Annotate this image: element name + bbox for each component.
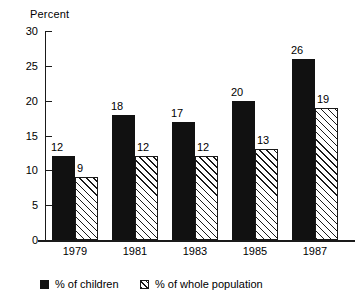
bar-children-1987 xyxy=(292,59,315,240)
bar-whole-1983 xyxy=(195,156,218,240)
bar-whole-1987 xyxy=(315,108,338,240)
bar-chart: Percent 051015202530 1979198119831985198… xyxy=(0,0,361,308)
bar-value-label: 20 xyxy=(231,87,243,98)
x-axis-tick-label: 1981 xyxy=(105,245,165,257)
chart-legend: % of children % of whole population xyxy=(0,278,361,298)
bar-whole-1979 xyxy=(75,177,98,240)
y-axis-tick-label: 15 xyxy=(0,130,38,142)
x-axis-tick-label: 1983 xyxy=(165,245,225,257)
bar-value-label: 17 xyxy=(171,108,183,119)
y-axis-tick-label: 25 xyxy=(0,60,38,72)
y-axis-tick-label: 0 xyxy=(0,234,38,246)
bar-group: 1712 xyxy=(172,31,218,240)
bar-value-label: 18 xyxy=(111,101,123,112)
bar-value-label: 12 xyxy=(51,142,63,153)
bar-children-1981 xyxy=(112,115,135,240)
y-axis-title: Percent xyxy=(30,8,69,20)
bar-group: 1812 xyxy=(112,31,158,240)
bar-whole-1981 xyxy=(135,156,158,240)
bar-group: 129 xyxy=(52,31,98,240)
bar-whole-1985 xyxy=(255,149,278,240)
bar-group: 2013 xyxy=(232,31,278,240)
y-axis-tick-label: 20 xyxy=(0,95,38,107)
y-axis-tick-label: 5 xyxy=(0,199,38,211)
bar-value-label: 12 xyxy=(137,142,149,153)
bar-value-label: 9 xyxy=(77,163,83,174)
y-axis-tick-label: 30 xyxy=(0,25,38,37)
bar-group: 2619 xyxy=(292,31,338,240)
bar-children-1979 xyxy=(52,156,75,240)
bar-value-label: 19 xyxy=(317,94,329,105)
bar-value-label: 13 xyxy=(257,135,269,146)
legend-item-whole-population: % of whole population xyxy=(140,278,263,290)
legend-label-children: % of children xyxy=(55,278,119,290)
x-axis-line xyxy=(38,240,355,242)
legend-swatch-whole-population-icon xyxy=(140,280,149,289)
x-axis-tick-label: 1987 xyxy=(285,245,345,257)
x-axis-tick-label: 1985 xyxy=(225,245,285,257)
y-axis-tick-label: 10 xyxy=(0,164,38,176)
legend-item-children: % of children xyxy=(40,278,119,290)
bar-children-1983 xyxy=(172,122,195,240)
x-axis-tick-label: 1979 xyxy=(45,245,105,257)
plot-area: 1291812171220132619 xyxy=(46,31,352,240)
legend-label-whole-population: % of whole population xyxy=(155,278,263,290)
y-axis-tick xyxy=(46,240,52,241)
legend-swatch-children-icon xyxy=(40,280,49,289)
bar-value-label: 12 xyxy=(197,142,209,153)
bar-children-1985 xyxy=(232,101,255,240)
bar-value-label: 26 xyxy=(291,45,303,56)
